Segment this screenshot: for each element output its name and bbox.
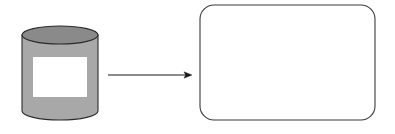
dataset-cylinder	[22, 26, 98, 120]
dataset-inner-box	[33, 57, 87, 97]
cylinder-top-ellipse	[22, 26, 98, 44]
process-arrow	[108, 72, 192, 78]
diagram-canvas	[0, 0, 395, 134]
result-panel	[200, 5, 375, 120]
result-panel-border	[200, 5, 375, 120]
diagram-graphics	[0, 0, 395, 134]
